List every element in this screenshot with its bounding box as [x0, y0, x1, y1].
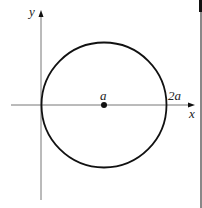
- y-axis-arrow-icon: [39, 10, 44, 17]
- intercept-label: 2a: [168, 88, 182, 103]
- y-axis-label: y: [27, 4, 35, 19]
- right-edge-border-top: [199, 0, 202, 12]
- center-label: a: [100, 88, 107, 103]
- circle-diagram: y x a 2a: [0, 0, 202, 208]
- x-axis-label: x: [188, 106, 195, 121]
- right-edge-border: [200, 0, 202, 208]
